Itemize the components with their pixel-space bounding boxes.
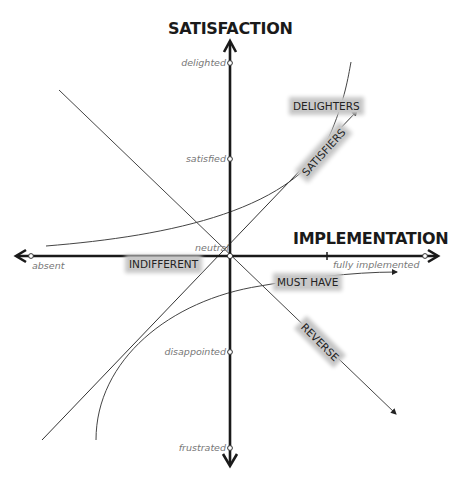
- label-fully-implemented: fully implemented: [333, 259, 419, 270]
- label-absent: absent: [32, 260, 64, 271]
- label-frustrated: frustrated: [179, 442, 226, 453]
- tick-origin: [227, 253, 232, 258]
- tick-delighted: [228, 61, 233, 66]
- tick-absent: [29, 254, 34, 259]
- y-axis-title: SATISFACTION: [168, 19, 293, 38]
- tick-frustrated: [228, 446, 233, 451]
- category-delighters: DELIGHTERS: [292, 100, 361, 112]
- x-axis-title: IMPLEMENTATION: [293, 229, 448, 248]
- tick-disappointed: [228, 350, 233, 355]
- tick-satisfied: [228, 157, 233, 162]
- tick-fully-implemented: [423, 254, 428, 259]
- label-delighted: delighted: [181, 57, 226, 68]
- label-satisfied: satisfied: [186, 153, 226, 164]
- label-disappointed: disappointed: [164, 346, 226, 357]
- label-neutral: neutral: [195, 242, 229, 253]
- category-indifferent: INDIFFERENT: [128, 258, 199, 270]
- category-must-have: MUST HAVE: [276, 276, 339, 288]
- must-have-curve: [96, 272, 397, 440]
